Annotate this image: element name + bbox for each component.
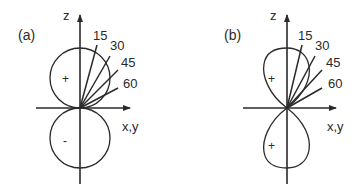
angle-label-15-a: 15 <box>93 28 107 43</box>
lower-sign-a: - <box>63 134 67 148</box>
lower-sign-b: + <box>268 139 275 153</box>
upper-sign-a: + <box>62 72 69 86</box>
orbital-diagram: (a) z x,y + - 15 30 45 60 (b) z x,y + + … <box>0 0 360 192</box>
angle-lines-b <box>287 45 322 108</box>
xy-axis-label-b: x,y <box>327 119 344 134</box>
angle-label-60-b: 60 <box>328 76 342 91</box>
angle-label-45-a: 45 <box>121 55 135 70</box>
z-axis-label-a: z <box>63 8 70 23</box>
upper-sign-b: + <box>268 72 275 86</box>
angle-label-30-a: 30 <box>110 38 124 53</box>
angle-label-60-a: 60 <box>123 76 137 91</box>
panel-label-a: (a) <box>18 27 35 43</box>
z-axis-label-b: z <box>270 8 277 23</box>
panel-label-b: (b) <box>224 27 241 43</box>
xy-axis-label-a: x,y <box>122 119 139 134</box>
angle-label-45-b: 45 <box>326 55 340 70</box>
angle-label-30-b: 30 <box>315 38 329 53</box>
angle-label-15-b: 15 <box>298 28 312 43</box>
